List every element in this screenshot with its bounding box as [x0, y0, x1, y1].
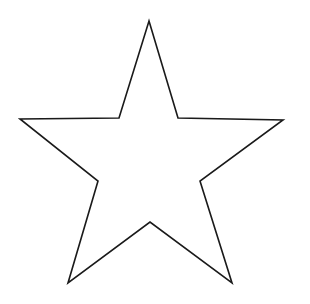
- star-figure: [0, 0, 310, 304]
- drawing-canvas: [0, 0, 310, 304]
- five-pointed-star-outline: [20, 21, 283, 283]
